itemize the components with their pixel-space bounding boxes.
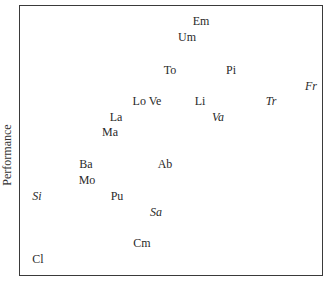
- point-label-sa: Sa: [150, 206, 162, 218]
- point-label-um: Um: [178, 31, 196, 43]
- point-label-ba: Ba: [79, 158, 92, 170]
- point-label-pu: Pu: [111, 190, 124, 202]
- plot-frame: [19, 5, 323, 276]
- point-label-to: To: [164, 64, 177, 76]
- point-label-cl: Cl: [32, 253, 43, 265]
- point-label-cm: Cm: [133, 237, 150, 249]
- point-label-em: Em: [193, 15, 210, 27]
- point-label-fr: Fr: [305, 80, 317, 92]
- point-label-tr: Tr: [266, 95, 277, 107]
- point-label-la: La: [110, 111, 123, 123]
- point-label-lo-ve: Lo Ve: [133, 95, 162, 107]
- scatter-chart: Performance Em Um To Pi Fr Lo Ve Li Tr L…: [0, 0, 326, 282]
- point-label-pi: Pi: [226, 64, 236, 76]
- y-axis-label: Performance: [0, 124, 15, 185]
- point-label-va: Va: [212, 111, 224, 123]
- point-label-mo: Mo: [79, 174, 96, 186]
- point-label-si: Si: [32, 190, 41, 202]
- point-label-ab: Ab: [158, 158, 173, 170]
- point-label-ma: Ma: [102, 126, 118, 138]
- point-label-li: Li: [195, 95, 206, 107]
